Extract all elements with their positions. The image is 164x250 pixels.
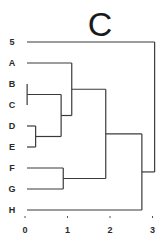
dendrogram-chart: C 5ABCDEFGH 0123 [0,0,164,250]
x-tick-label: 0 [22,225,27,235]
leaf-label: C [9,100,16,110]
x-axis: 0123 [22,216,155,235]
leaf-label: D [9,121,16,131]
chart-title: C [88,5,113,43]
leaf-label: H [9,205,16,215]
x-tick-label: 3 [150,225,155,235]
leaf-label: A [9,58,16,68]
leaf-label: E [9,142,15,152]
leaf-label: G [8,184,15,194]
dendrogram-branches [27,42,155,210]
leaf-label: 5 [9,37,14,47]
x-tick-label: 1 [65,225,70,235]
x-tick-label: 2 [107,225,112,235]
leaf-labels: 5ABCDEFGH [8,37,15,215]
leaf-label: B [9,79,16,89]
leaf-label: F [9,163,15,173]
